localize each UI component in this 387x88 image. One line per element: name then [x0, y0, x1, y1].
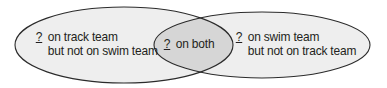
- left-set-blank: ?: [33, 30, 45, 44]
- intersection-line1: on both: [176, 36, 215, 51]
- left-set-line2: but not on swim team: [48, 43, 158, 58]
- intersection-blank: ?: [161, 37, 173, 51]
- left-set-line1: on track team: [48, 29, 118, 44]
- intersection-label: ?on both: [161, 37, 214, 51]
- right-set-blank: ?: [233, 30, 245, 44]
- right-set-line1: on swim team: [248, 29, 320, 44]
- left-set-label: ?on track team but not on swim team: [33, 30, 158, 58]
- right-set-label: ?on swim team but not on track team: [233, 30, 356, 58]
- right-set-line2: but not on track team: [248, 43, 357, 58]
